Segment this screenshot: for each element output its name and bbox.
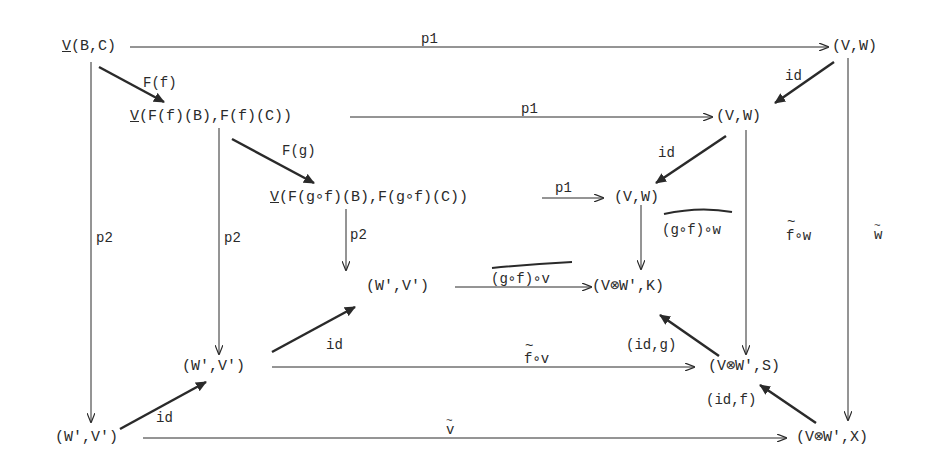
- node-VxW-S: (V⊗W',S): [708, 359, 780, 375]
- node-V-W-top: (V,W): [832, 39, 877, 55]
- tilde-fv: ~: [525, 338, 533, 354]
- tilde-fw: ~: [787, 214, 795, 230]
- label-idg: (id,g): [626, 337, 676, 353]
- node-W-V-outer: (W',V'): [55, 430, 118, 446]
- label-id-inner-left: id: [326, 337, 343, 353]
- label-mid-p1: p1: [521, 101, 538, 117]
- tilde-v: ~: [446, 413, 453, 429]
- label-mid-p2: p2: [224, 230, 241, 246]
- label-id-mid-right: id: [658, 145, 675, 161]
- node-V-W-mid: (V,W): [716, 109, 761, 125]
- label-idf: (id,f): [706, 392, 756, 408]
- label-Ff: F(f): [143, 75, 177, 91]
- label-id-top-right: id: [785, 68, 802, 84]
- label-gfv: (g∘f)∘v: [491, 271, 550, 287]
- label-inner-p2: p2: [350, 227, 367, 243]
- node-V-W-inner: (V,W): [614, 190, 659, 206]
- node-V-B-C: V(B,C): [62, 39, 116, 55]
- node-V-Ff: V(F(f)(B),F(f)(C)): [130, 109, 292, 125]
- node-VxW-X: (V⊗W',X): [796, 430, 868, 446]
- label-id-outer-left: id: [156, 410, 173, 426]
- arrow-id-top-right: [775, 62, 834, 103]
- arrow-idf: [760, 385, 816, 423]
- label-inner-p1: p1: [555, 180, 572, 196]
- label-outer-p2: p2: [96, 230, 113, 246]
- brace-gfv: [492, 262, 572, 268]
- tilde-w: ~: [874, 218, 881, 234]
- brace-gfw: [664, 209, 732, 214]
- node-V-Fgf: V(F(g∘f)(B),F(g∘f)(C)): [270, 190, 468, 206]
- label-Fg: F(g): [282, 143, 316, 159]
- node-W-V-inner: (W',V'): [366, 279, 429, 295]
- label-fw: f∘w: [786, 228, 811, 244]
- node-W-V-mid: (W',V'): [182, 359, 245, 375]
- node-VxW-K: (V⊗W',K): [592, 279, 664, 295]
- label-top-p1: p1: [421, 31, 438, 47]
- label-gfw: (g∘f)∘w: [662, 222, 721, 238]
